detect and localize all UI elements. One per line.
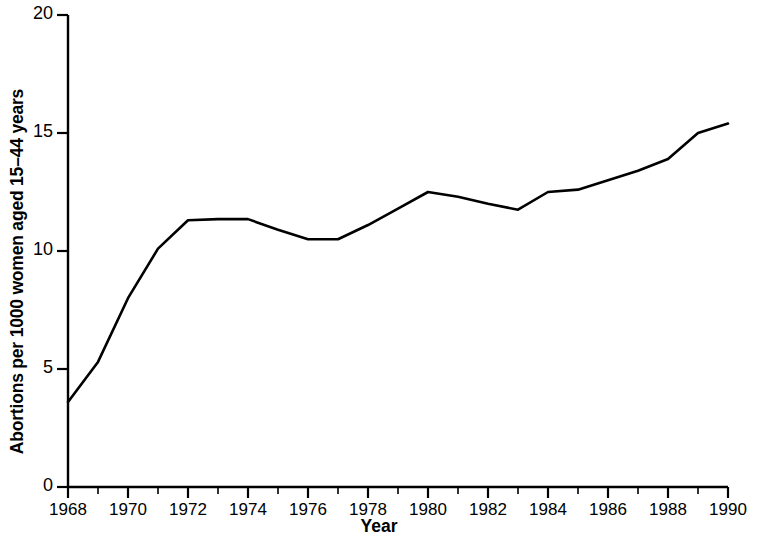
y-tick-label: 0 [11,475,53,496]
y-axis-ticks [57,15,68,487]
y-axis-title: Abortions per 1000 women aged 15–44 year… [0,0,34,543]
line-chart-plot [0,0,758,543]
data-series-line [68,124,728,402]
y-tick-label: 15 [11,121,53,142]
chart-figure: Abortions per 1000 women aged 15–44 year… [0,0,758,543]
y-tick-label: 20 [11,3,53,24]
x-axis-title: Year [0,516,758,537]
axes [68,15,728,487]
y-tick-label: 10 [11,239,53,260]
y-tick-label: 5 [11,357,53,378]
